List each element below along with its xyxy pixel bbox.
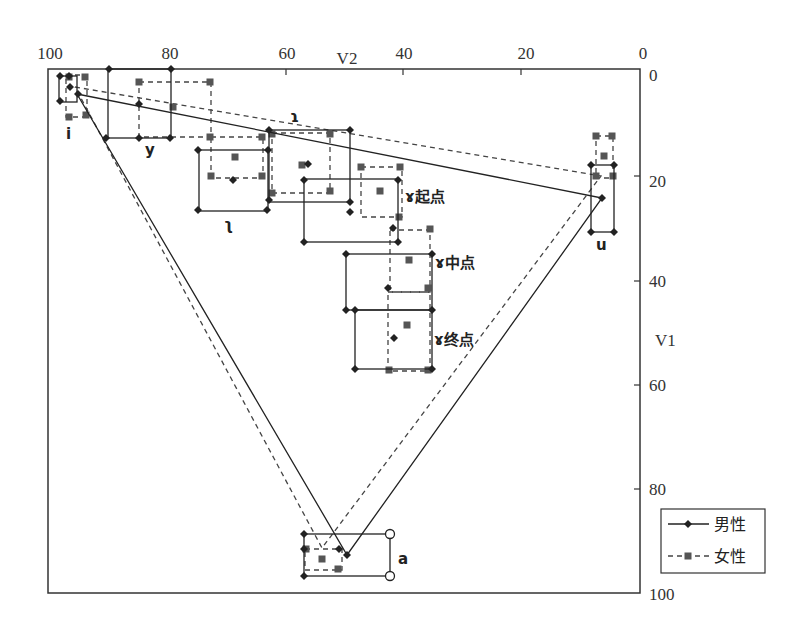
x-axis-title: V2 [337,49,358,68]
vowel-label-gamma-start: ɤ起点 [405,188,445,206]
legend-label-male: 男性 [714,515,746,534]
x-tick-label: 80 [162,44,179,63]
vowel-label-i: i [66,125,71,143]
vowel-label-a: a [398,550,408,568]
male-series [59,69,614,576]
x-tick-label: 0 [639,44,648,63]
y-tick-label: 80 [649,480,666,499]
x-tick-label: 20 [518,44,535,63]
x-tick-label: 60 [279,44,296,63]
legend: 男性 女性 [661,509,765,573]
y-axis [634,176,640,489]
vowel-label-y: y [145,141,155,159]
x-tick-label: 40 [396,44,413,63]
y-tick-label: 40 [649,272,666,291]
y-tick-label: 20 [649,172,666,191]
vowel-chart: 100 80 60 V2 40 20 0 0 20 40 V1 60 80 10… [0,0,811,634]
y-tick-label: 0 [649,66,658,85]
x-tick-label: 100 [37,44,63,63]
legend-label-female: 女性 [714,547,746,566]
vowel-label-gamma-end: ɤ终点 [434,331,474,349]
vowel-label-retroflex: ʅ [224,216,233,234]
y-tick-label: 100 [649,585,675,604]
x-axis [286,69,521,75]
plot-frame [48,69,640,593]
y-axis-title: V1 [655,331,676,350]
male-markers [56,65,618,581]
vowel-label-gamma-mid: ɤ中点 [435,254,475,272]
vowel-label-apical: ɿ [290,108,299,126]
vowel-label-u: u [596,236,607,254]
y-tick-label: 60 [649,376,666,395]
